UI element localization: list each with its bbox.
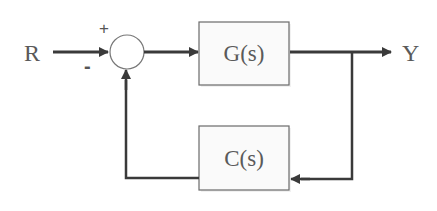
- summing-junction: [110, 35, 144, 69]
- plus-sign: +: [99, 19, 109, 38]
- minus-sign: -: [84, 55, 91, 77]
- input-label: R: [24, 40, 40, 66]
- forward-block-g: G(s): [199, 22, 291, 87]
- block-diagram: R + - G(s) Y C(s): [0, 0, 437, 211]
- feedback-block-c: C(s): [199, 126, 291, 192]
- feedback-return-line: [126, 80, 199, 178]
- feedback-branch-line: [301, 52, 352, 179]
- feedback-block-label: C(s): [224, 146, 264, 171]
- output-label: Y: [402, 40, 419, 66]
- forward-block-label: G(s): [224, 41, 265, 66]
